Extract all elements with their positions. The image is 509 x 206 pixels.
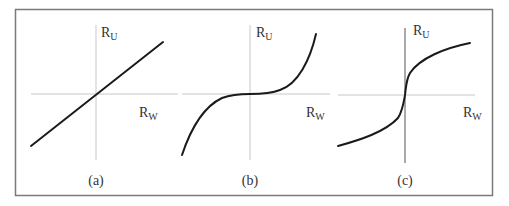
panel-caption: (c) [397,173,413,189]
panel-caption: (b) [242,173,259,189]
panel-a: RU RW (a) [31,25,178,189]
y-axis-label: RU [256,25,273,42]
x-axis-label: RW [463,105,482,122]
y-axis-label: RU [101,25,118,42]
x-axis-label: RW [139,105,158,122]
panel-caption: (a) [88,173,104,189]
x-axis-label: RW [306,105,325,122]
panel-b: RU RW (b) [182,25,330,189]
figure-canvas: RU RW (a) RU RW (b) RU RW (c) [0,0,509,206]
y-axis-label: RU [413,23,430,40]
panel-c: RU RW (c) [338,23,482,189]
